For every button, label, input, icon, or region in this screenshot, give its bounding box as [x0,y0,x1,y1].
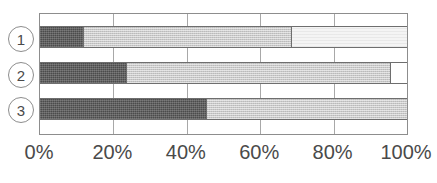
row-label-2-text: 2 [17,68,25,83]
plot-area [39,13,408,135]
bar-row-2-segment-1 [40,63,126,83]
x-tick-label-40: 40% [166,138,206,166]
bar-row-3-segment-1 [40,99,206,119]
x-tick-label-20: 20% [92,138,132,166]
bar-row-3-segment-2 [206,99,407,119]
bar-row-2-segment-3 [390,63,407,83]
bar-row-1-segment-1 [40,27,83,47]
row-label-1-text: 1 [17,32,25,47]
x-tick-label-100: 100% [380,138,431,166]
row-label-1: 1 [8,26,34,52]
x-tick-label-80: 80% [313,138,353,166]
x-axis: 0% 20% 40% 60% 80% 100% [0,138,437,168]
x-tick-label-60: 60% [239,138,279,166]
stacked-bar-chart: 1 2 3 0% 20% [0,0,437,183]
row-label-3: 3 [8,97,34,123]
x-tick-label-0: 0% [25,138,54,166]
bar-row-1 [40,26,407,48]
bar-row-2 [40,62,407,84]
row-label-2: 2 [8,62,34,88]
bar-row-1-segment-2 [83,27,292,47]
row-label-3-text: 3 [17,103,25,118]
bar-row-1-segment-3 [291,27,407,47]
bar-row-3 [40,98,407,120]
bar-row-2-segment-2 [126,63,390,83]
